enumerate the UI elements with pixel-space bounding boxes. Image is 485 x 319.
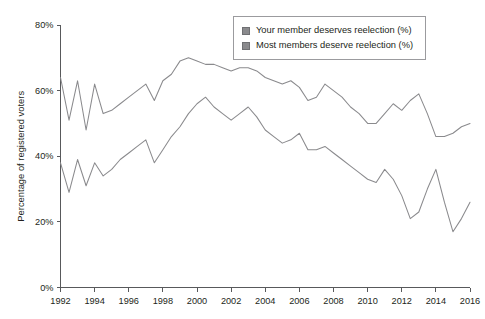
- chart-ticks: [57, 25, 471, 292]
- x-tick-label: 2006: [289, 296, 309, 306]
- x-axis-tick-labels: 1992199419961998200020022004200620082010…: [50, 296, 480, 306]
- series-most-members: [61, 97, 471, 232]
- legend-label-most-members: Most members deserve reelection (%): [256, 40, 413, 51]
- x-tick-label: 1998: [153, 296, 173, 306]
- x-tick-label: 2000: [187, 296, 207, 306]
- legend-label-your-member: Your member deserves reelection (%): [256, 25, 412, 36]
- chart-axes: [61, 25, 471, 288]
- y-tick-label: 60%: [35, 86, 53, 96]
- x-tick-label: 2012: [392, 296, 412, 306]
- chart-series: [61, 58, 471, 232]
- x-tick-label: 1996: [119, 296, 139, 306]
- legend-swatch-most-members: [242, 42, 250, 50]
- chart-legend: Your member deserves reelection (%) Most…: [233, 16, 426, 60]
- legend-item[interactable]: Your member deserves reelection (%): [242, 23, 413, 38]
- legend-swatch-your-member: [242, 27, 250, 35]
- y-axis-title: Percentage of registered voters: [15, 91, 26, 222]
- y-axis-title-text: Percentage of registered voters: [15, 91, 26, 222]
- x-tick-label: 2010: [357, 296, 377, 306]
- y-axis-tick-labels: 0%20%40%60%80%: [35, 20, 53, 293]
- line-chart: 1992199419961998200020022004200620082010…: [0, 0, 485, 319]
- x-tick-label: 2014: [426, 296, 446, 306]
- x-tick-label: 2002: [221, 296, 241, 306]
- x-tick-label: 2004: [255, 296, 275, 306]
- y-tick-label: 80%: [35, 20, 53, 30]
- y-tick-label: 0%: [40, 283, 53, 293]
- series-your-member: [61, 58, 471, 137]
- legend-item[interactable]: Most members deserve reelection (%): [242, 38, 413, 53]
- y-tick-label: 20%: [35, 217, 53, 227]
- x-tick-label: 2008: [323, 296, 343, 306]
- x-tick-label: 2016: [460, 296, 480, 306]
- y-tick-label: 40%: [35, 151, 53, 161]
- x-tick-label: 1994: [84, 296, 104, 306]
- x-tick-label: 1992: [50, 296, 70, 306]
